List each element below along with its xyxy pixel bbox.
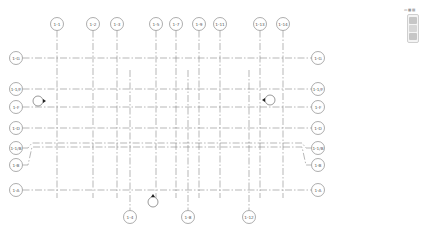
grid-label: 1-1/B bbox=[10, 146, 21, 151]
grid-bubble-left-1-A[interactable]: 1-A bbox=[10, 184, 23, 197]
grid-line-1-B[interactable] bbox=[23, 147, 312, 165]
grid-bubble-right-1-D[interactable]: 1-D bbox=[312, 122, 325, 135]
grid-bubble-1-1[interactable]: 1-1 bbox=[51, 18, 64, 31]
grid-label: 1-F bbox=[315, 105, 322, 110]
grid-bubble-1-8[interactable]: 1-8 bbox=[182, 211, 195, 224]
grid-label: 1-12 bbox=[244, 215, 254, 220]
grid-label: 1-D bbox=[314, 126, 321, 131]
grid-bubble-1-4[interactable]: 1-4 bbox=[124, 211, 137, 224]
grid-bubble-left-1-1/B[interactable]: 1-1/B bbox=[10, 142, 23, 155]
pan-icon[interactable] bbox=[409, 25, 417, 32]
grid-label: 1-G bbox=[314, 56, 322, 61]
grid-bubble-right-1-F[interactable]: 1-F bbox=[312, 101, 325, 114]
grid-bubble-1-9[interactable]: 1-9 bbox=[193, 18, 206, 31]
drawing-canvas[interactable]: 1-11-21-31-51-71-91-111-131-141-41-81-12… bbox=[0, 0, 431, 237]
grid-label: 1-1 bbox=[54, 22, 61, 27]
grid-bubble-right-1-A[interactable]: 1-A bbox=[312, 184, 325, 197]
grid-label: 1-4 bbox=[127, 215, 134, 220]
grid-label: 1-B bbox=[315, 163, 322, 168]
grid-label: 1-1/B bbox=[312, 146, 323, 151]
elevation-marker-left[interactable] bbox=[33, 96, 46, 106]
grid-label: 1-5 bbox=[153, 22, 160, 27]
grid-bubble-right-1-G[interactable]: 1-G bbox=[312, 52, 325, 65]
marker-arrow-icon bbox=[151, 194, 155, 197]
grid-label: 1-A bbox=[315, 188, 322, 193]
navbar-header[interactable]: ▭ ▦ ▤ bbox=[404, 8, 420, 13]
marker-arrow-icon bbox=[43, 99, 46, 103]
grid-bubble-left-1-D[interactable]: 1-D bbox=[10, 122, 23, 135]
grid-bubble-right-1-B[interactable]: 1-B bbox=[312, 159, 325, 172]
grid-bubble-left-1-B[interactable]: 1-B bbox=[10, 159, 23, 172]
grid-bubble-1-5[interactable]: 1-5 bbox=[150, 18, 163, 31]
grid-label: 1-1/F bbox=[313, 87, 324, 92]
grid-bubble-1-14[interactable]: 1-14 bbox=[277, 18, 290, 31]
marker-arrow-icon bbox=[262, 98, 265, 102]
grid-label: 1-3 bbox=[114, 22, 121, 27]
grid-label: 1-2 bbox=[90, 22, 97, 27]
grid-label: 1-D bbox=[12, 126, 19, 131]
grid-bubble-1-11[interactable]: 1-11 bbox=[214, 18, 227, 31]
grid-label: 1-14 bbox=[278, 22, 288, 27]
navigation-bar[interactable]: ▭ ▦ ▤ bbox=[404, 8, 420, 42]
grid-label: 1-13 bbox=[255, 22, 265, 27]
grid-bubble-1-12[interactable]: 1-12 bbox=[243, 211, 256, 224]
steering-wheel-icon[interactable] bbox=[409, 17, 417, 24]
grid-bubble-left-1-F[interactable]: 1-F bbox=[10, 101, 23, 114]
navbar-panel bbox=[407, 14, 419, 43]
grid-bubble-1-2[interactable]: 1-2 bbox=[87, 18, 100, 31]
grid-label: 1-1/F bbox=[11, 87, 22, 92]
grid-bubble-right-1-1/B[interactable]: 1-1/B bbox=[312, 142, 325, 155]
grid-bubble-1-13[interactable]: 1-13 bbox=[254, 18, 267, 31]
elevation-marker-right[interactable] bbox=[262, 95, 275, 105]
grid-label: 1-9 bbox=[196, 22, 203, 27]
grid-label: 1-11 bbox=[215, 22, 225, 27]
grid-label: 1-8 bbox=[185, 215, 192, 220]
elevation-marker-bottom[interactable] bbox=[148, 194, 158, 207]
grid-label: 1-A bbox=[13, 188, 20, 193]
grid-label: 1-F bbox=[13, 105, 20, 110]
grid-label: 1-7 bbox=[173, 22, 180, 27]
grid-bubble-1-3[interactable]: 1-3 bbox=[111, 18, 124, 31]
grid-bubble-left-1-G[interactable]: 1-G bbox=[10, 52, 23, 65]
grid-bubble-left-1-1/F[interactable]: 1-1/F bbox=[10, 83, 23, 96]
zoom-icon[interactable] bbox=[409, 33, 417, 40]
grid-lines bbox=[23, 31, 312, 211]
grid-bubble-right-1-1/F[interactable]: 1-1/F bbox=[312, 83, 325, 96]
grid-label: 1-B bbox=[13, 163, 20, 168]
grid-label: 1-G bbox=[12, 56, 20, 61]
grid-bubble-1-7[interactable]: 1-7 bbox=[170, 18, 183, 31]
